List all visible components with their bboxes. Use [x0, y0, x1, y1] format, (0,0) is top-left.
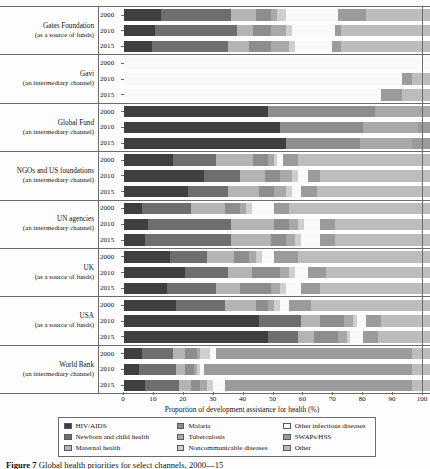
chart-row-year: 2010	[99, 75, 121, 83]
chart-row-year: 2000	[99, 350, 121, 358]
bar-segment	[145, 380, 179, 391]
chart-group-subtitle: (an intermediary channel)	[23, 79, 94, 88]
bar-segment	[295, 41, 332, 52]
bar-segment	[274, 203, 289, 214]
bar-segment	[124, 41, 152, 52]
stacked-bar	[124, 283, 430, 294]
bar-segment	[320, 219, 335, 230]
bar-segment	[152, 41, 229, 52]
bar-segment	[142, 203, 191, 214]
bar-segment	[381, 315, 430, 326]
bar-segment	[252, 203, 273, 214]
bar-segment	[298, 331, 313, 342]
bar-segment	[286, 138, 359, 149]
legend-item: HIV/AIDS	[64, 421, 177, 432]
chart-bar-row: 2010	[99, 120, 430, 136]
bar-segment	[124, 122, 280, 133]
legend-item: Other	[283, 443, 371, 454]
chart-row-year: 2010	[99, 269, 121, 277]
bar-segment	[253, 154, 268, 165]
bar-segment	[277, 9, 286, 20]
legend-label: Noncommunicable diseases	[188, 444, 267, 452]
chart-row-year: 2010	[99, 365, 121, 373]
chart-group-label: UK(as a source of funds)	[0, 249, 98, 296]
bar-segment	[188, 186, 228, 197]
bar-segment	[124, 203, 142, 214]
chart-group-label: Global Fund(an intermediary channel)	[0, 104, 98, 151]
chart-legend: HIV/AIDSNewborn and child healthMaternal…	[58, 417, 376, 457]
bar-segment	[231, 9, 255, 20]
bar-segment	[274, 186, 286, 197]
bar-segment	[124, 9, 161, 20]
bar-segment	[173, 348, 185, 359]
bar-segment	[228, 186, 259, 197]
stacked-bar	[124, 315, 430, 326]
chart-group-rows: 200020102015	[98, 7, 430, 54]
bar-segment	[320, 315, 344, 326]
bar-segment	[274, 251, 298, 262]
stacked-bar	[124, 122, 430, 133]
bar-segment	[366, 9, 430, 20]
x-axis-tick-label: 70	[329, 395, 336, 403]
bar-segment	[124, 138, 286, 149]
chart-group-subtitle: (an intermediary channel)	[23, 176, 94, 185]
chart-group-name: Gavi	[80, 70, 94, 79]
stacked-bar	[124, 58, 430, 69]
chart-bar-row: 2015	[99, 87, 430, 103]
bar-segment	[292, 25, 335, 36]
legend-column: Other infectious diseasesSWAPs/HSSOther	[283, 421, 371, 453]
chart-bar-row: 2000	[99, 249, 430, 265]
chart-group-label: Gavi(an intermediary channel)	[0, 55, 98, 102]
chart-group-rows: 200020102015	[98, 104, 430, 151]
bar-segment	[167, 283, 216, 294]
chart-group: NGOs and US foundations(an intermediary …	[0, 151, 430, 199]
bar-segment	[308, 170, 320, 181]
bar-segment	[216, 283, 240, 294]
legend-swatch	[283, 423, 291, 429]
bar-segment	[124, 364, 139, 375]
legend-item: Newborn and child health	[64, 432, 177, 443]
chart-group: Global Fund(an intermediary channel)2000…	[0, 103, 430, 151]
bar-segment	[240, 170, 264, 181]
chart-group-name: UN agencies	[57, 215, 94, 224]
bar-segment	[289, 219, 298, 230]
bar-segment	[402, 89, 430, 100]
legend-item: SWAPs/HSS	[283, 432, 371, 443]
bar-segment	[231, 234, 271, 245]
legend-swatch	[177, 423, 185, 429]
bar-segment	[308, 267, 326, 278]
chart-bar-row: 2010	[99, 23, 430, 39]
bar-segment	[360, 138, 412, 149]
chart-group-rows: 200020102015	[98, 297, 430, 344]
bar-segment	[335, 219, 430, 230]
chart-row-year: 2000	[99, 253, 121, 261]
bar-segment	[295, 267, 307, 278]
bar-segment	[314, 331, 338, 342]
bar-segment	[124, 234, 145, 245]
bar-segment	[173, 154, 216, 165]
legend-swatch	[64, 445, 72, 451]
chart-row-year: 2010	[99, 27, 121, 35]
chart-group: USA(as a source of funds)200020102015	[0, 296, 430, 344]
bar-segment	[124, 331, 268, 342]
bar-segment	[124, 283, 167, 294]
bar-segment	[124, 154, 173, 165]
chart-row-year: 2015	[99, 236, 121, 244]
legend-swatch	[177, 434, 185, 440]
bar-segment	[249, 41, 270, 52]
bar-segment	[124, 219, 148, 230]
legend-label: Other	[295, 444, 311, 452]
bar-segment	[124, 73, 402, 84]
chart-bar-row: 2010	[99, 71, 430, 87]
chart-group-label: Gates Foundation(as a source of funds)	[0, 7, 98, 54]
chart-group-label: NGOs and US foundations(an intermediary …	[0, 152, 98, 199]
figure-number: Figure 7	[6, 460, 37, 469]
x-axis-tick-label: 0	[121, 395, 125, 403]
bar-segment	[271, 234, 286, 245]
bar-segment	[320, 283, 430, 294]
bar-segment	[363, 122, 418, 133]
bar-segment	[259, 315, 302, 326]
figure-page: Gates Foundation(as a source of funds)20…	[0, 0, 430, 469]
bar-segment	[262, 251, 274, 262]
bar-segment	[280, 267, 289, 278]
